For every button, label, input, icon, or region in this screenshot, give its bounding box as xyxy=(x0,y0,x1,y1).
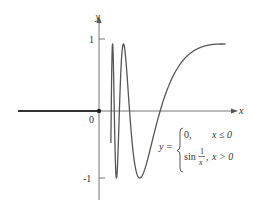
case-2-frac-den: x xyxy=(198,158,203,167)
brace-icon xyxy=(177,128,183,172)
x-axis-arrow-icon xyxy=(231,109,238,114)
origin-label: 0 xyxy=(89,114,94,125)
case-1-cond: x ≤ 0 xyxy=(211,129,232,140)
equation-lhs: y = xyxy=(158,141,173,152)
y-tick-label-neg1: -1 xyxy=(83,173,91,184)
y-tick-label-1: 1 xyxy=(89,34,94,45)
case-2-sin: sin xyxy=(184,151,196,162)
chart: y x 1 -1 0 y = 0, x ≤ 0 sin 1 x , x > 0 xyxy=(0,0,253,208)
case-1-expr: 0, xyxy=(184,129,192,140)
equation-annotation: y = 0, x ≤ 0 sin 1 x , x > 0 xyxy=(158,128,233,172)
case-2-cond: x > 0 xyxy=(211,151,233,162)
origin-dot xyxy=(97,109,101,113)
case-2-comma: , xyxy=(206,151,209,162)
y-axis-label: y xyxy=(95,11,101,22)
x-axis-label: x xyxy=(238,105,244,116)
case-2-frac-num: 1 xyxy=(200,147,204,156)
